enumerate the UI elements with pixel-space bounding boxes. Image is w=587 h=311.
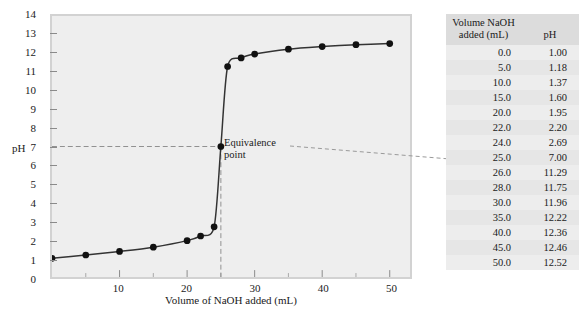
- data-point-10mL: [116, 248, 123, 255]
- table-row: 24.02.69: [446, 135, 579, 150]
- cell-ph: 2.69: [521, 135, 579, 150]
- table-row: 30.011.96: [446, 195, 579, 210]
- cell-volume: 50.0: [446, 255, 521, 270]
- column-header-volume: Volume NaOH added (mL): [446, 14, 521, 45]
- y-tick-label-8: 8: [31, 123, 37, 133]
- y-axis-title: pH: [12, 142, 25, 154]
- y-tick-label-12: 12: [25, 47, 36, 57]
- y-tick-mark-2: [50, 241, 57, 242]
- table-header-row: Volume NaOH added (mL) pH: [446, 14, 579, 45]
- y-tick-label-6: 6: [31, 160, 37, 170]
- cell-volume: 30.0: [446, 195, 521, 210]
- data-point-26mL: [224, 63, 231, 70]
- cell-volume: 15.0: [446, 90, 521, 105]
- x-tick-label-30: 30: [249, 282, 260, 294]
- cell-volume: 26.0: [446, 165, 521, 180]
- data-point-28mL: [238, 55, 245, 62]
- y-tick-label-4: 4: [31, 198, 37, 208]
- cell-volume: 35.0: [446, 210, 521, 225]
- cell-ph: 12.36: [521, 225, 579, 240]
- table-row: 22.02.20: [446, 120, 579, 135]
- data-point-50mL: [386, 40, 393, 47]
- titration-data-table: Volume NaOH added (mL) pH 0.01.005.01.18…: [446, 14, 579, 270]
- y-tick-mark-6: [50, 165, 57, 166]
- y-tick-mark-3: [50, 222, 57, 223]
- cell-ph: 2.20: [521, 120, 579, 135]
- cell-volume: 28.0: [446, 180, 521, 195]
- data-point-45mL: [353, 41, 360, 48]
- y-tick-mark-4: [50, 203, 57, 204]
- x-tick-label-40: 40: [318, 282, 329, 294]
- y-tick-mark-8: [50, 128, 57, 129]
- y-tick-label-2: 2: [31, 236, 37, 246]
- data-point-22mL: [197, 233, 204, 240]
- table-row: 15.01.60: [446, 90, 579, 105]
- cell-volume: 20.0: [446, 105, 521, 120]
- equivalence-point-line2: point: [224, 149, 294, 161]
- data-point-40mL: [319, 43, 326, 50]
- cell-ph: 1.95: [521, 105, 579, 120]
- x-tick-label-10: 10: [113, 282, 124, 294]
- cell-volume: 25.0: [446, 150, 521, 165]
- equivalence-point-line1: Equivalence: [224, 137, 294, 149]
- y-tick-mark-11: [50, 71, 57, 72]
- cell-ph: 11.96: [521, 195, 579, 210]
- y-tick-mark-5: [50, 184, 57, 185]
- table-row: 50.012.52: [446, 255, 579, 270]
- cell-volume: 24.0: [446, 135, 521, 150]
- cell-ph: 12.46: [521, 240, 579, 255]
- cell-ph: 11.75: [521, 180, 579, 195]
- cell-volume: 10.0: [446, 75, 521, 90]
- data-point-5mL: [82, 252, 89, 259]
- x-tick-label-20: 20: [181, 282, 192, 294]
- cell-volume: 5.0: [446, 60, 521, 75]
- table-row: 25.07.00: [446, 150, 579, 165]
- cell-volume: 0.0: [446, 45, 521, 60]
- y-tick-label-14: 14: [25, 9, 36, 19]
- column-header-ph: pH: [521, 14, 579, 45]
- table-row: 26.011.29: [446, 165, 579, 180]
- x-axis-title: Volume of NaOH added (mL): [50, 294, 412, 306]
- y-tick-mark-1: [50, 260, 57, 261]
- cell-ph: 1.37: [521, 75, 579, 90]
- y-tick-label-1: 1: [31, 255, 37, 265]
- data-point-35mL: [285, 46, 292, 53]
- titration-figure: 01234567891011121314 pH Volume of NaOH a…: [0, 0, 587, 311]
- y-tick-mark-12: [50, 52, 57, 53]
- cell-ph: 12.22: [521, 210, 579, 225]
- y-tick-label-5: 5: [31, 179, 37, 189]
- y-tick-label-11: 11: [25, 66, 36, 76]
- cell-ph: 1.60: [521, 90, 579, 105]
- data-point-30mL: [251, 51, 258, 58]
- cell-ph: 11.29: [521, 165, 579, 180]
- table-row: 20.01.95: [446, 105, 579, 120]
- y-tick-label-7: 7: [31, 142, 37, 152]
- data-point-24mL: [211, 224, 218, 231]
- table-body: 0.01.005.01.1810.01.3715.01.6020.01.9522…: [446, 45, 579, 270]
- column-header-volume-line2: added (mL): [452, 29, 515, 41]
- y-tick-label-13: 13: [25, 28, 36, 38]
- cell-volume: 40.0: [446, 225, 521, 240]
- data-point-15mL: [150, 244, 157, 251]
- table-row: 28.011.75: [446, 180, 579, 195]
- table-header: Volume NaOH added (mL) pH: [446, 14, 579, 45]
- cell-ph: 1.18: [521, 60, 579, 75]
- cell-ph: 7.00: [521, 150, 579, 165]
- data-point-20mL: [184, 237, 191, 244]
- y-tick-label-3: 3: [31, 217, 37, 227]
- table-row: 40.012.36: [446, 225, 579, 240]
- table-row: 45.012.46: [446, 240, 579, 255]
- y-tick-mark-10: [50, 90, 57, 91]
- cell-ph: 12.52: [521, 255, 579, 270]
- y-tick-mark-9: [50, 109, 57, 110]
- equivalence-point-annotation: Equivalence point: [224, 137, 294, 161]
- y-tick-mark-7: [50, 147, 57, 148]
- y-tick-label-10: 10: [25, 85, 36, 95]
- cell-volume: 45.0: [446, 240, 521, 255]
- table-row: 35.012.22: [446, 210, 579, 225]
- table-row: 5.01.18: [446, 60, 579, 75]
- y-axis: 01234567891011121314: [0, 0, 50, 311]
- x-tick-label-50: 50: [386, 282, 397, 294]
- cell-ph: 1.00: [521, 45, 579, 60]
- y-tick-label-0: 0: [31, 274, 37, 284]
